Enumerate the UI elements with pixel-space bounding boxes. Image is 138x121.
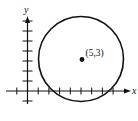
y-axis-label: y	[23, 4, 29, 15]
center-point	[80, 57, 85, 62]
center-label: (5,3)	[86, 48, 104, 59]
x-axis-label: x	[131, 85, 137, 96]
y-axis-arrow-icon	[25, 16, 30, 23]
ticks	[17, 21, 113, 101]
axes: x y	[6, 4, 137, 104]
coordinate-plane: x y (5,3)	[0, 0, 138, 121]
x-axis-arrow-icon	[124, 89, 131, 94]
